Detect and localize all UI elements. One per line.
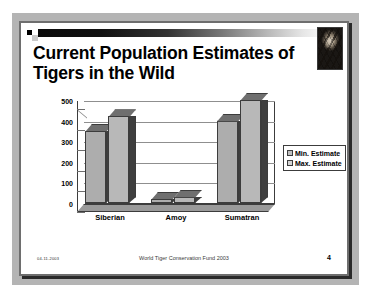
y-axis-tick-label: 300 bbox=[61, 139, 73, 146]
bar-front-face bbox=[108, 116, 129, 203]
footer-date: 04-11-2003 bbox=[37, 256, 59, 261]
bar bbox=[108, 116, 129, 203]
legend-swatch-icon bbox=[287, 150, 293, 156]
y-axis-tick-label: 100 bbox=[61, 180, 73, 187]
bar-side-face bbox=[261, 100, 268, 203]
y-axis-tick bbox=[77, 130, 85, 131]
bar bbox=[240, 100, 261, 203]
page-title-line-2: Tigers in the Wild bbox=[33, 63, 321, 83]
bar-chart: 0100200300400500 SiberianAmoySumatran Mi… bbox=[51, 101, 321, 233]
slide-frame: Current Population Estimates of Tigers i… bbox=[19, 21, 349, 276]
legend-item: Min. Estimate bbox=[287, 148, 342, 158]
legend-item: Max. Estimate bbox=[287, 158, 342, 168]
bar-front-face bbox=[240, 100, 261, 203]
y-axis-tick bbox=[77, 109, 85, 110]
y-axis-tick-label: 0 bbox=[69, 201, 73, 208]
y-axis-tick-label: 400 bbox=[61, 118, 73, 125]
y-axis-tick bbox=[77, 171, 85, 172]
slide-footer: 04-11-2003 World Tiger Conservation Fund… bbox=[21, 256, 347, 266]
x-axis-category-labels: SiberianAmoySumatran bbox=[77, 213, 275, 227]
legend-swatch-icon bbox=[287, 160, 293, 166]
bar bbox=[217, 121, 238, 203]
screenshot-root: Current Population Estimates of Tigers i… bbox=[0, 0, 371, 298]
bar bbox=[85, 131, 106, 203]
footer-organization: World Tiger Conservation Fund 2003 bbox=[139, 255, 229, 261]
x-axis-category-label: Sumatran bbox=[225, 213, 260, 222]
page-title-line-1: Current Population Estimates of bbox=[33, 43, 321, 63]
plot-left-wall bbox=[77, 101, 85, 211]
legend-label: Min. Estimate bbox=[295, 150, 340, 157]
bar-front-face bbox=[85, 131, 106, 203]
decor-gradient-bar bbox=[38, 29, 326, 37]
chart-legend: Min. EstimateMax. Estimate bbox=[283, 145, 346, 171]
legend-label: Max. Estimate bbox=[295, 160, 342, 167]
bar bbox=[151, 199, 172, 203]
page-title: Current Population Estimates of Tigers i… bbox=[33, 43, 321, 84]
x-axis-category-label: Siberian bbox=[95, 213, 125, 222]
bar-side-face bbox=[129, 116, 136, 203]
plot-floor bbox=[77, 204, 275, 212]
y-axis-tick-label: 200 bbox=[61, 159, 73, 166]
x-axis-category-label: Amoy bbox=[166, 213, 187, 222]
y-axis-tick-label: 500 bbox=[61, 98, 73, 105]
y-axis-tick bbox=[77, 191, 85, 192]
y-axis-tick-labels: 0100200300400500 bbox=[51, 101, 75, 211]
y-axis-tick bbox=[77, 150, 85, 151]
chart-plot-area bbox=[77, 101, 275, 211]
slide-canvas: Current Population Estimates of Tigers i… bbox=[21, 23, 347, 274]
bar bbox=[174, 197, 195, 203]
footer-page-number: 4 bbox=[327, 254, 331, 261]
bar-front-face bbox=[217, 121, 238, 203]
